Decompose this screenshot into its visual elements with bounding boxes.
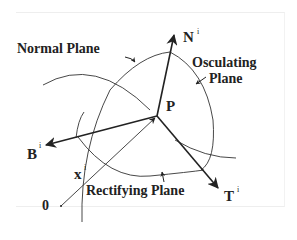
- tangent-superscript: i: [237, 186, 239, 194]
- normal-plane-pointer: [125, 57, 135, 62]
- binormal-superscript: i: [39, 142, 41, 150]
- point-p-label: P: [166, 99, 175, 114]
- normal-plane-label: Normal Plane: [17, 42, 100, 56]
- osculating-plane-label-line2: Plane: [209, 72, 242, 86]
- tangent-vector-label: T: [224, 189, 234, 204]
- normal-superscript: i: [197, 28, 199, 36]
- rectifying-plane-pointer: [162, 172, 164, 182]
- origin-dot: [60, 205, 62, 207]
- binormal-vector-label: B: [27, 147, 37, 162]
- binormal-side-arc: [76, 112, 84, 138]
- rectifying-plane-arc: [78, 137, 204, 176]
- rectifying-plane-label: Rectifying Plane: [86, 184, 184, 198]
- origin-label: 0: [42, 199, 49, 213]
- normal-plane-arc: [43, 74, 150, 110]
- binormal-vector: [46, 116, 157, 145]
- normal-vector-label: N: [183, 30, 194, 45]
- position-vector-label: x: [74, 167, 82, 182]
- position-superscript: i: [84, 164, 86, 172]
- osculating-plane-label-line1: Osculating: [192, 56, 257, 70]
- tangent-vector: [157, 116, 218, 188]
